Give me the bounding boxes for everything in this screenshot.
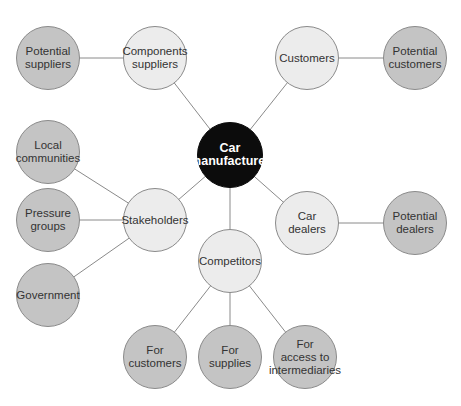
node-foracc: For access to intermediaries bbox=[273, 325, 337, 389]
node-potsup: Potential suppliers bbox=[16, 26, 80, 90]
node-pressure: Pressure groups bbox=[16, 188, 80, 252]
node-components: Components suppliers bbox=[123, 26, 187, 90]
node-local: Local communities bbox=[16, 120, 80, 184]
node-comp: Competitors bbox=[198, 229, 262, 293]
node-gov: Government bbox=[16, 263, 80, 327]
node-potcust: Potential customers bbox=[383, 26, 447, 90]
node-stake: Stakeholders bbox=[123, 188, 187, 252]
node-forcust: For customers bbox=[123, 325, 187, 389]
node-forsup: For supplies bbox=[198, 325, 262, 389]
node-customers: Customers bbox=[275, 26, 339, 90]
node-dealers: Car dealers bbox=[275, 191, 339, 255]
node-potdeal: Potential dealers bbox=[383, 191, 447, 255]
node-center: Car manufacturer bbox=[197, 122, 263, 188]
